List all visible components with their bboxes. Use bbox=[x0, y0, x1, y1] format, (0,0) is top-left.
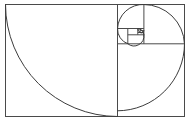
outer-golden-rectangle bbox=[6, 5, 185, 117]
fibonacci-spiral-figure bbox=[0, 0, 190, 122]
fibonacci-spiral-canvas bbox=[0, 0, 190, 122]
